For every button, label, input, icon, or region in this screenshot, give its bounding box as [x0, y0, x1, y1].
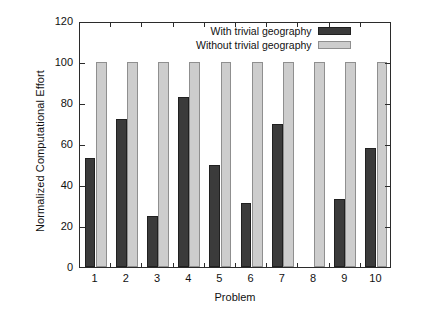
y-tick-mark-right — [385, 145, 391, 146]
y-tick-mark-left — [79, 63, 85, 64]
x-tick-mark — [204, 263, 205, 268]
x-tick-mark — [235, 263, 236, 268]
bar-with-trivial-geography-4 — [178, 97, 189, 267]
y-tick-mark-left — [79, 227, 85, 228]
y-tick-label-60: 60 — [3, 138, 73, 150]
bar-with-trivial-geography-3 — [147, 216, 158, 267]
bar-with-trivial-geography-2 — [116, 119, 127, 267]
x-tick-mark-top — [173, 22, 174, 27]
y-tick-mark-right — [385, 63, 391, 64]
light-swatch-icon — [318, 41, 351, 49]
x-tick-mark-top — [360, 22, 361, 27]
bar-with-trivial-geography-7 — [272, 124, 283, 268]
y-tick-mark-left — [79, 186, 85, 187]
y-tick-label-20: 20 — [3, 220, 73, 232]
dark-swatch-icon — [318, 27, 351, 35]
bar-without-trivial-geography-6 — [252, 62, 263, 267]
y-tick-label-100: 100 — [3, 56, 73, 68]
x-tick-mark — [360, 263, 361, 268]
legend-label-with-trivial-geography: With trivial geography — [211, 25, 312, 37]
x-axis-title: Problem — [79, 291, 391, 303]
bar-with-trivial-geography-5 — [209, 165, 220, 268]
bar-without-trivial-geography-7 — [283, 62, 294, 267]
bar-with-trivial-geography-10 — [365, 148, 376, 267]
bar-without-trivial-geography-8 — [314, 62, 325, 267]
y-tick-mark-right — [385, 104, 391, 105]
y-tick-mark-right — [385, 186, 391, 187]
x-tick-mark-top — [141, 22, 142, 27]
bar-without-trivial-geography-3 — [158, 62, 169, 267]
x-tick-label-10: 10 — [355, 272, 395, 284]
legend-label-without-trivial-geography: Without trivial geography — [196, 39, 312, 51]
x-tick-mark — [110, 263, 111, 268]
x-tick-mark — [297, 263, 298, 268]
y-tick-mark-left — [79, 145, 85, 146]
y-tick-mark-left — [79, 104, 85, 105]
y-tick-mark-right — [385, 227, 391, 228]
bar-without-trivial-geography-5 — [221, 62, 232, 267]
bar-without-trivial-geography-2 — [127, 62, 138, 267]
bar-with-trivial-geography-1 — [85, 158, 96, 267]
bar-without-trivial-geography-1 — [96, 62, 107, 267]
bar-without-trivial-geography-9 — [345, 62, 356, 267]
y-tick-label-40: 40 — [3, 179, 73, 191]
y-tick-label-0: 0 — [3, 261, 73, 273]
bar-chart-figure: Normalized Computational Effort 12345678… — [0, 0, 427, 313]
bar-with-trivial-geography-6 — [241, 203, 252, 267]
y-tick-label-80: 80 — [3, 97, 73, 109]
bar-without-trivial-geography-10 — [377, 62, 388, 267]
x-tick-mark — [266, 263, 267, 268]
bar-with-trivial-geography-9 — [334, 199, 345, 267]
chart-legend: With trivial geography Without trivial g… — [196, 24, 351, 52]
x-tick-mark — [173, 263, 174, 268]
x-tick-mark — [141, 263, 142, 268]
plot-area — [79, 22, 391, 268]
legend-item-with-trivial-geography: With trivial geography — [196, 24, 351, 38]
x-tick-mark-top — [110, 22, 111, 27]
bar-without-trivial-geography-4 — [189, 62, 200, 267]
x-tick-mark — [329, 263, 330, 268]
legend-item-without-trivial-geography: Without trivial geography — [196, 38, 351, 52]
y-tick-label-120: 120 — [3, 15, 73, 27]
